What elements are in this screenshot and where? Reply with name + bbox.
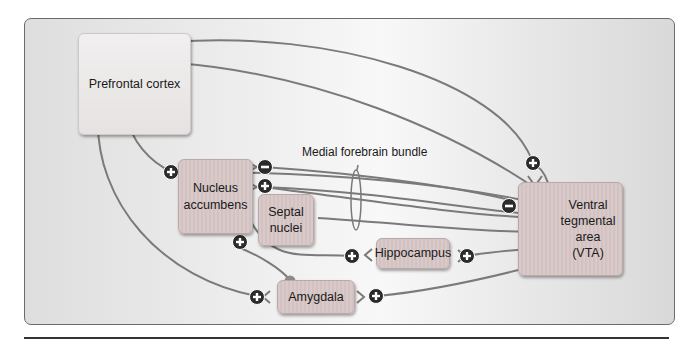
amygdala-label: Amygdala [288, 289, 344, 305]
vta-label-1: Ventral [554, 197, 622, 213]
region-vta: Ventral tegmental area (VTA) [518, 182, 623, 276]
vta-label-4: (VTA) [554, 245, 622, 261]
region-septal-nuclei: Septal nuclei [258, 194, 314, 246]
region-prefrontal-cortex: Prefrontal cortex [78, 33, 191, 135]
accumbens-label-1: Nucleus [184, 180, 248, 196]
septal-label-1: Septal [268, 204, 303, 220]
vta-label-3: area [554, 229, 622, 245]
accumbens-label-2: accumbens [184, 197, 248, 213]
septal-label-2: nuclei [268, 220, 303, 236]
region-amygdala: Amygdala [277, 280, 355, 314]
bottom-rule [24, 337, 669, 339]
region-hippocampus: Hippocampus [376, 238, 450, 269]
region-nucleus-accumbens: Nucleus accumbens [178, 159, 253, 234]
prefrontal-label: Prefrontal cortex [89, 76, 181, 92]
vta-label-2: tegmental [554, 213, 622, 229]
bundle-label: Medial forebrain bundle [302, 145, 427, 159]
hippocampus-label: Hippocampus [375, 245, 451, 261]
